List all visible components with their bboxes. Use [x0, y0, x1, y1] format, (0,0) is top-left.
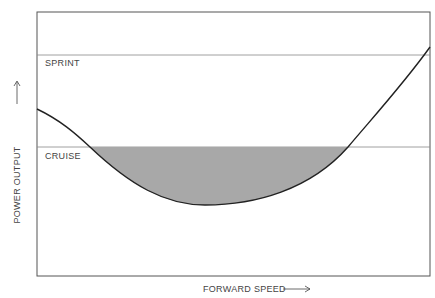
x-axis-arrow-icon [283, 286, 310, 292]
x-axis-label: FORWARD SPEED [203, 284, 286, 294]
cruise-label: CRUISE [45, 151, 81, 161]
y-axis-arrow-icon [14, 81, 20, 104]
plot-frame [37, 12, 430, 276]
sprint-label: SPRINT [45, 58, 80, 68]
y-axis-label: POWER OUTPUT [12, 130, 22, 240]
cruise-shaded-region [90, 147, 348, 205]
power-curve-diagram [0, 0, 435, 298]
